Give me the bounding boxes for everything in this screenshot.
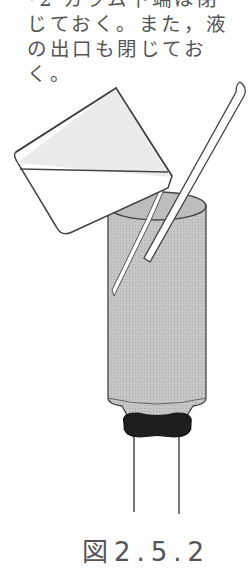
outlet-tube xyxy=(134,432,179,514)
column xyxy=(108,192,206,417)
figure-caption: 図2.5.2 xyxy=(82,531,210,568)
stopcock-ring xyxy=(123,413,191,437)
